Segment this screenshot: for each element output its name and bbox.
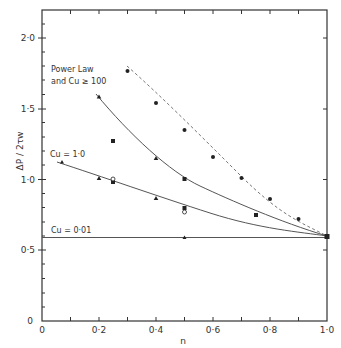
- x-tick-0-2: 0·2: [92, 325, 106, 335]
- x-tick-0-8: 0·8: [263, 325, 278, 335]
- cu-1-0-markers: [60, 160, 187, 214]
- y-tick-0-5: 0·5: [21, 245, 35, 255]
- annotation-cu-1-0: Cu = 1·0: [50, 150, 85, 159]
- plot-frame: [42, 10, 327, 321]
- x-axis-ticks: [71, 10, 299, 321]
- annotation-power-law-line1: Power Law: [51, 65, 94, 74]
- y-tick-1-0: 1·0: [21, 175, 36, 185]
- x-tick-1-0: 1·0: [320, 325, 335, 335]
- power-law-curve: [127, 66, 327, 236]
- x-tick-0-6: 0·6: [206, 325, 221, 335]
- annotation-cu-0-01: Cu = 0·01: [51, 226, 91, 235]
- y-axis-title: ΔP / 2τw: [15, 132, 25, 171]
- x-tick-0-4: 0·4: [149, 325, 164, 335]
- y-tick-2-0: 2·0: [21, 33, 36, 43]
- cu-1-0-curve: [57, 162, 327, 236]
- chart: 0 0·5 1·0 1·5 2·0 0 0·2 0·4 0·6 0·8 1·0 …: [0, 0, 341, 348]
- y-tick-0: 0: [27, 316, 33, 326]
- y-tick-1-5: 1·5: [21, 104, 35, 114]
- annotation-power-law-line2: and Cu ≥ 100: [51, 77, 106, 86]
- x-axis-title: n: [180, 336, 186, 346]
- x-tick-0: 0: [39, 325, 45, 335]
- power-law-markers: [126, 69, 330, 239]
- intermediate-cu-curve: [96, 94, 327, 236]
